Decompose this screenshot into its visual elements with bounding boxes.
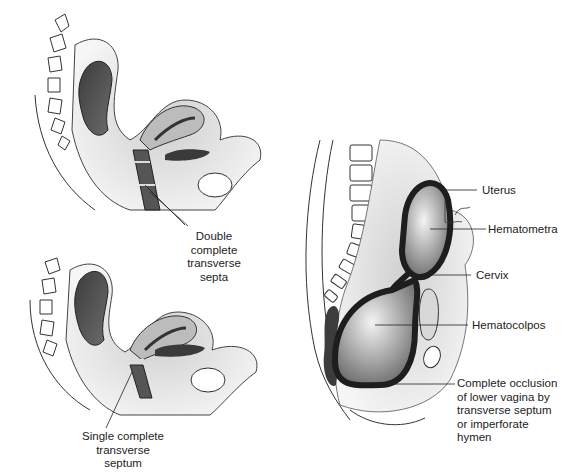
label-line: septum — [68, 457, 178, 471]
label-line: Double — [182, 230, 246, 244]
label-line: complete — [182, 244, 246, 258]
label-single-septum: Single complete transverse septum — [68, 430, 178, 471]
spine-vertebrae-icon — [40, 258, 60, 356]
spine-vertebrae-icon — [48, 14, 70, 150]
label-line: or imperforate — [457, 418, 569, 432]
label-line: transverse — [68, 444, 178, 458]
panel-double-septa — [35, 14, 261, 226]
label-line: Single complete — [68, 430, 178, 444]
label-hematometra: Hematometra — [488, 223, 558, 237]
label-line: hymen — [457, 431, 569, 445]
label-line: transverse — [182, 257, 246, 271]
label-double-septa: Double complete transverse septa — [182, 230, 246, 284]
label-line: septa — [182, 271, 246, 285]
label-hematocolpos: Hematocolpos — [472, 319, 546, 333]
label-line: Complete occlusion — [457, 377, 569, 391]
label-occlusion: Complete occlusion of lower vagina by tr… — [457, 377, 569, 445]
label-cervix: Cervix — [476, 269, 509, 283]
label-line: transverse septum — [457, 404, 569, 418]
label-uterus: Uterus — [482, 184, 516, 198]
hematometra-shape — [402, 183, 450, 277]
label-line: of lower vagina by — [457, 391, 569, 405]
